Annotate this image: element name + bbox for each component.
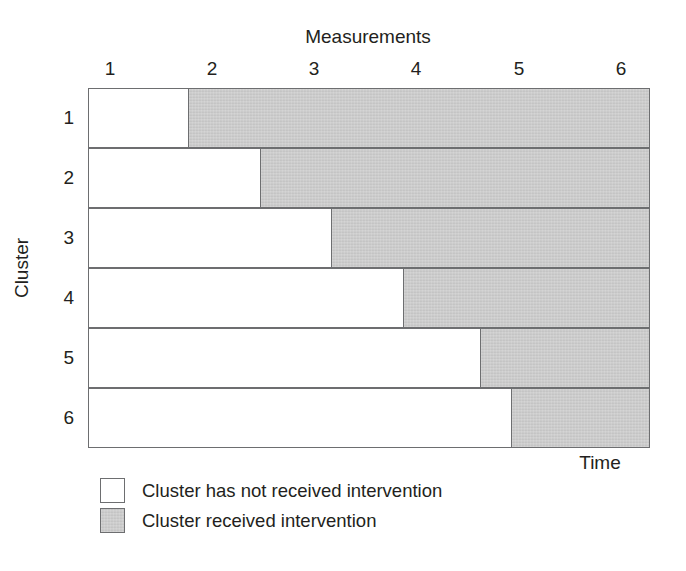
wedge-row-cluster-4 (88, 268, 650, 328)
y-tick-label-5: 5 (52, 347, 74, 369)
y-axis-title: Cluster (11, 238, 33, 298)
wedge-row-cluster-3 (88, 208, 650, 268)
intervention-segment-cluster-3 (331, 208, 650, 268)
y-tick-label-2: 2 (52, 167, 74, 189)
x-axis-title: Measurements (305, 26, 431, 48)
y-tick-label-3: 3 (52, 227, 74, 249)
y-tick-label-4: 4 (52, 287, 74, 309)
control-segment-cluster-6 (88, 388, 512, 448)
wedge-row-cluster-2 (88, 148, 650, 208)
control-segment-cluster-3 (88, 208, 332, 268)
legend-label-intervention: Cluster received intervention (142, 506, 376, 535)
wedge-row-cluster-5 (88, 328, 650, 388)
x-tick-label-5: 5 (514, 58, 525, 80)
intervention-segment-cluster-6 (511, 388, 650, 448)
legend-swatch-intervention (100, 508, 125, 533)
control-segment-cluster-2 (88, 148, 261, 208)
x-tick-label-4: 4 (411, 58, 422, 80)
control-segment-cluster-4 (88, 268, 404, 328)
intervention-segment-cluster-1 (188, 88, 650, 148)
x-tick-label-6: 6 (616, 58, 627, 80)
y-tick-label-1: 1 (52, 107, 74, 129)
y-tick-label-6: 6 (52, 407, 74, 429)
intervention-segment-cluster-2 (260, 148, 650, 208)
stepped-wedge-figure: Measurements 1 2 3 4 5 6 Cluster 1 2 3 4… (0, 0, 686, 571)
time-axis-label: Time (579, 452, 621, 474)
intervention-segment-cluster-4 (403, 268, 650, 328)
wedge-row-cluster-1 (88, 88, 650, 148)
x-tick-label-1: 1 (105, 58, 116, 80)
legend-label-control: Cluster has not received intervention (142, 476, 442, 505)
wedge-row-cluster-6 (88, 388, 650, 448)
control-segment-cluster-5 (88, 328, 481, 388)
intervention-segment-cluster-5 (480, 328, 650, 388)
x-tick-label-3: 3 (309, 58, 320, 80)
x-tick-label-2: 2 (207, 58, 218, 80)
plot-area (88, 88, 650, 448)
control-segment-cluster-1 (88, 88, 189, 148)
legend-swatch-control (100, 478, 125, 503)
